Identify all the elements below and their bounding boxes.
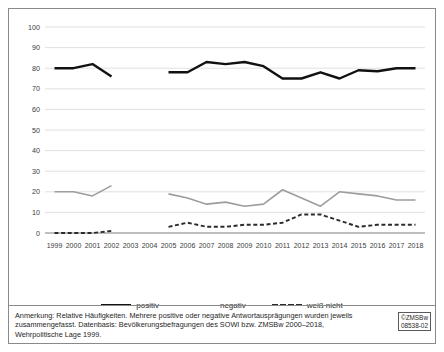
series-line-weiß-nicht bbox=[55, 231, 112, 233]
x-tick-label: 2015 bbox=[351, 242, 367, 249]
series-line-positiv bbox=[169, 62, 416, 78]
x-tick-label: 2011 bbox=[275, 242, 290, 249]
y-tick-label: 40 bbox=[32, 146, 40, 155]
x-tick-label: 2014 bbox=[332, 242, 348, 249]
y-tick-label: 20 bbox=[32, 187, 40, 196]
x-tick-label: 2005 bbox=[161, 242, 177, 249]
x-tick-label: 2000 bbox=[66, 242, 82, 249]
x-tick-label: 1999 bbox=[47, 242, 63, 249]
plot-area: 1020304050607080901000 19992000200120022… bbox=[9, 9, 435, 279]
x-tick-label: 2017 bbox=[389, 242, 405, 249]
x-tick-label: 2013 bbox=[313, 242, 329, 249]
y-tick-label: 70 bbox=[32, 84, 40, 93]
x-tick-label: 2010 bbox=[256, 242, 272, 249]
y-tick-label: 100 bbox=[28, 23, 40, 32]
chart-figure: 1020304050607080901000 19992000200120022… bbox=[8, 8, 436, 344]
y-tick-label: 50 bbox=[32, 126, 40, 135]
x-tick-label: 2001 bbox=[85, 242, 101, 249]
y-tick-label: 90 bbox=[32, 43, 40, 52]
x-tick-label: 2002 bbox=[104, 242, 120, 249]
series-line-positiv bbox=[55, 64, 112, 76]
x-tick-label: 2006 bbox=[180, 242, 196, 249]
x-tick-label: 2003 bbox=[123, 242, 139, 249]
copyright-owner: ©ZMSBw bbox=[401, 314, 428, 322]
series-line-negativ bbox=[55, 186, 112, 196]
series-line-negativ bbox=[169, 190, 416, 206]
y-tick-label: 30 bbox=[32, 167, 40, 176]
x-tick-label: 2012 bbox=[294, 242, 310, 249]
y-axis-tick-labels: 1020304050607080901000 bbox=[28, 23, 40, 238]
x-axis-tick-labels: 1999200020012002200320042005200620072008… bbox=[47, 242, 424, 249]
line-chart-svg: 1020304050607080901000 19992000200120022… bbox=[9, 9, 435, 279]
note-box: Anmerkung: Relative Häufigkeiten. Mehrer… bbox=[9, 305, 435, 343]
series-line-weiß-nicht bbox=[169, 214, 416, 226]
x-tick-label: 2004 bbox=[142, 242, 158, 249]
x-tick-label: 2018 bbox=[408, 242, 424, 249]
copyright-code: 08538-02 bbox=[401, 322, 428, 330]
grid-lines bbox=[45, 27, 425, 233]
y-tick-label: 60 bbox=[32, 105, 40, 114]
x-tick-label: 2009 bbox=[237, 242, 253, 249]
x-tick-label: 2016 bbox=[370, 242, 386, 249]
y-tick-label: 10 bbox=[32, 208, 40, 217]
x-tick-label: 2008 bbox=[218, 242, 234, 249]
y-tick-label: 0 bbox=[36, 229, 40, 238]
y-tick-label: 80 bbox=[32, 64, 40, 73]
series-lines bbox=[55, 62, 416, 233]
copyright-badge: ©ZMSBw 08538-02 bbox=[398, 312, 431, 331]
x-tick-label: 2007 bbox=[199, 242, 215, 249]
note-text: Anmerkung: Relative Häufigkeiten. Mehrer… bbox=[15, 311, 367, 339]
